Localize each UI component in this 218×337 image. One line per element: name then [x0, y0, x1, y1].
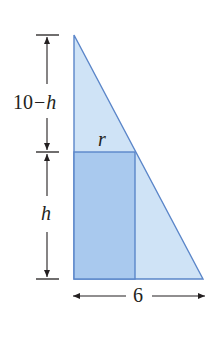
triangle-rectangle-diagram: 10−h h r 6: [0, 0, 218, 337]
lower-height-label: h: [41, 202, 51, 224]
rectangle-width-label: r: [98, 128, 106, 150]
upper-height-variable: h: [46, 91, 56, 113]
upper-height-minus: −: [34, 91, 45, 113]
upper-height-number: 10: [13, 91, 33, 113]
inscribed-rectangle: [74, 152, 135, 279]
upper-height-label: 10−h: [13, 91, 56, 113]
base-label: 6: [133, 284, 143, 306]
